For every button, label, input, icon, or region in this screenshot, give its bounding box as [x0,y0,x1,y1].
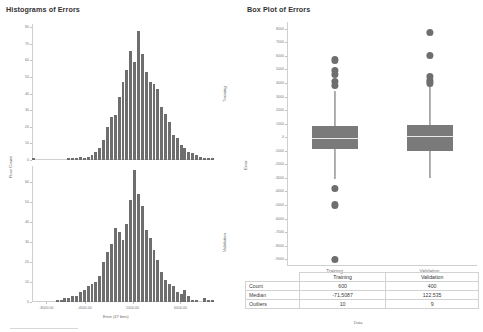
histogram-bar [145,230,148,302]
histogram-bar [203,158,206,160]
histogram-bar [110,244,113,302]
histogram-bar [114,115,117,160]
histogram-bar [168,122,171,160]
y-tick-mark [285,232,287,233]
histogram-bar [137,194,140,302]
histogram-bar [122,82,125,160]
y-tick-label: -3000 [269,176,284,180]
histogram-bar [91,155,94,160]
y-tick-mark [30,202,32,203]
y-tick-mark [285,259,287,260]
histogram-training-side-label: Training [222,86,227,102]
table-column-header: Validation [386,273,479,282]
y-tick-label: -9000 [269,257,284,261]
histogram-bar [129,200,132,302]
x-tick-mark [85,302,86,304]
y-tick-mark [30,44,32,45]
table-column-header: Training [300,273,386,282]
histogram-bar [67,158,70,160]
y-tick-label: 30 [18,240,29,244]
boxplot-panel: Box Plot of Errors Error 800070006000500… [241,0,483,332]
y-tick-label: 20 [18,125,29,129]
histogram-bar [94,282,97,302]
table-cell: 10 [300,300,386,309]
histogram-bar [106,252,109,302]
y-tick-label: -7000 [269,230,284,234]
y-tick-mark [285,246,287,247]
histogram-bar [176,292,179,302]
y-tick-label: 8000 [269,27,284,31]
y-tick-mark [30,27,32,28]
y-tick-label: 2000 [269,108,284,112]
table-row: Count600400 [246,282,479,291]
x-tick-mark [133,302,134,304]
y-tick-mark [285,56,287,57]
histogram-bar [79,157,82,160]
y-tick-mark [30,143,32,144]
table-row-label: Outliers [246,300,300,309]
table-corner-cell [246,273,300,282]
histograms-panel: Histograms of Errors Row Count 010203040… [0,0,241,332]
histogram-bar [83,290,86,302]
x-tick-label: 6000.00 [174,306,187,310]
histogram-bar [71,296,74,302]
histogram-bar [160,107,163,160]
y-tick-label: 0 [269,135,284,139]
histogram-bar [122,240,125,302]
y-tick-label: 70 [18,42,29,46]
histogram-bar [211,158,214,160]
y-tick-label: 0 [18,158,29,162]
histogram-bar [195,155,198,160]
y-tick-label: 7000 [269,40,284,44]
y-tick-label: 3000 [269,95,284,99]
y-tick-mark [30,182,32,183]
y-tick-mark [30,262,32,263]
y-tick-mark [285,97,287,98]
y-tick-label: -6000 [269,217,284,221]
y-tick-label: -2000 [269,162,284,166]
histogram-bar [137,31,140,160]
y-tick-label: 0 [18,300,29,304]
histogram-bar [168,284,171,302]
histogram-bar [32,158,35,160]
table-cell: -71.5087 [300,291,386,300]
y-tick-mark [285,29,287,30]
y-tick-label: 50 [18,200,29,204]
histogram-bar [118,232,121,302]
y-tick-mark [30,282,32,283]
histogram-bar [149,238,152,302]
y-tick-mark [285,137,287,138]
histogram-bar [79,292,82,302]
histogram-bar [141,206,144,302]
histogram-bar [110,117,113,160]
table-cell: 122.535 [386,291,479,300]
histogram-bar [87,286,90,302]
y-tick-label: 60 [18,58,29,62]
x-tick-label: 1000.00 [126,306,139,310]
histogram-bar [133,170,136,302]
histograms-x-axis-label: Error (47 bins) [103,314,129,319]
histogram-bar [153,250,156,302]
x-tick-mark [180,302,181,304]
histogram-bar [56,300,59,302]
y-tick-mark [285,151,287,152]
histogram-bar [203,298,206,302]
y-tick-mark [30,110,32,111]
histogram-validation-side-label: Validation [222,233,227,252]
boxplot-box [407,125,453,151]
histogram-bar [195,300,198,302]
y-tick-mark [30,94,32,95]
x-tick-label: -4000.00 [78,306,92,310]
footer-rule [10,328,78,329]
histogram-bar [183,148,186,160]
y-tick-mark [285,42,287,43]
histogram-bar [191,300,194,302]
table-cell: 600 [300,282,386,291]
histogram-bar [125,224,128,302]
histogram-bar [156,89,159,160]
y-tick-label: 40 [18,92,29,96]
histogram-bar [141,54,144,160]
y-tick-label: 20 [18,260,29,264]
y-tick-label: -1000 [269,149,284,153]
y-tick-label: 10 [18,280,29,284]
